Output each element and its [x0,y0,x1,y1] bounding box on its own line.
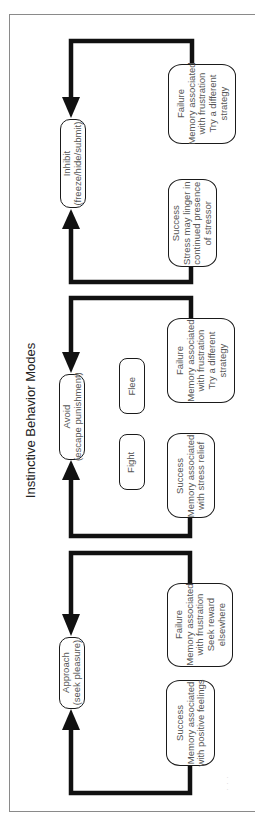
inhibit-failure-heading: Failure [175,63,186,145]
inhibit-success-heading: Success [171,181,182,264]
inhibit-failure-text: Try a different [207,63,218,145]
arrow-down-icon [62,352,80,373]
avoid-failure-text: strategy [217,319,228,401]
arrow-up-icon [62,209,80,229]
inhibit-mode-box: Inhibit (freeze/hide/submit) [60,119,86,208]
inhibit-success-text: of stressor [203,181,214,264]
arrow-up-icon [62,460,80,480]
avoid-mode-sublabel: (escape punishment) [72,373,83,462]
avoid-mode-label: Avoid [61,373,72,462]
flee-option-box: Flee [119,358,145,414]
avoid-mode-box: Avoid (escape punishment) [59,374,85,460]
diagram-canvas: Instinctive Behavior Modes Inhibit (free… [0,0,255,829]
fight-option-box: Fight [119,434,145,490]
diagram-title: Instinctive Behavior Modes [18,345,44,495]
avoid-success-text: with stress relief [196,434,207,516]
approach-success-box: Success Memory associated with positive … [166,680,215,766]
avoid-failure-box: Failure Memory associated with frustrati… [167,318,235,403]
approach-failure-box: Failure Memory associated with frustrati… [167,583,233,667]
inhibit-failure-box: Failure Memory associated with frustrati… [168,64,236,144]
approach-failure-text: Seek reward [205,584,216,666]
avoid-failure-heading: Failure [174,319,185,401]
approach-failure-heading: Failure [173,584,184,666]
approach-mode-box: Approach (seek pleasure) [59,637,85,709]
arrow-up-icon [62,709,80,730]
inhibit-mode-sublabel: (freeze/hide/submit) [73,122,84,206]
inhibit-failure-text: strategy [218,63,229,145]
arrow-down-icon [62,97,80,118]
approach-success-text: with positive feelings [196,679,207,766]
approach-failure-text: elsewhere [216,584,227,666]
approach-success-heading: Success [175,679,186,766]
arrow-down-icon [62,614,80,636]
avoid-failure-text: Try a different [206,319,217,401]
fight-option-label: Fight [127,451,138,472]
inhibit-success-box: Success Stress may linger in continued p… [168,179,217,267]
approach-mode-sublabel: (seek pleasure) [72,640,83,705]
page-number-text: · · · [224,776,230,790]
page-number-mark: · · · [216,778,238,788]
avoid-success-box: Success Memory associated with stress re… [167,433,215,518]
avoid-success-heading: Success [175,434,186,516]
flee-option-label: Flee [127,377,138,395]
diagram-title-text: Instinctive Behavior Modes [24,342,39,497]
